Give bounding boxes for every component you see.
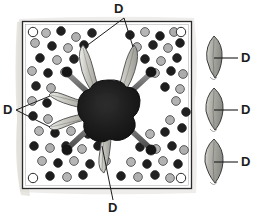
corner-granule-tr [176, 27, 185, 36]
label-d-top: D [114, 2, 123, 15]
corner-granule-tl [28, 27, 37, 36]
diagram-svg [0, 0, 256, 219]
rod-head-tl [62, 67, 72, 77]
label-d-left: D [3, 103, 12, 116]
corner-granule-bl [28, 173, 37, 182]
label-d-inset-3: D [241, 155, 250, 168]
label-d-bottom: D [108, 201, 117, 214]
rod-head-br [146, 145, 156, 155]
rod-head-bl [62, 145, 72, 155]
figure-canvas: D D D D D D [0, 0, 256, 219]
rod-head-tr [146, 67, 156, 77]
corner-granule-br [176, 173, 185, 182]
label-d-inset-2: D [241, 103, 250, 116]
label-d-inset-1: D [241, 51, 250, 64]
